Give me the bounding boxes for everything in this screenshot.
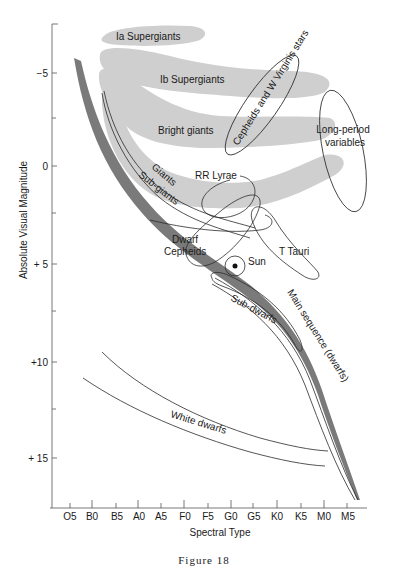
x-tick-labels: O5 B0 B5 A0 A5 F0 F5 G0 G5 K0 K5 M0 M5 (63, 511, 355, 522)
t-tauri-label: T Tauri (279, 246, 309, 257)
x-tick-label: O5 (63, 511, 77, 522)
dwarf-label: Dwarf (172, 234, 198, 245)
x-tick-label: F0 (179, 511, 191, 522)
cepheids-dwarf-label: Cepheids (164, 246, 206, 257)
x-tick-label: A0 (133, 511, 146, 522)
long-period-variables-ellipse (311, 86, 376, 216)
x-tick-label: F5 (202, 511, 214, 522)
sun-marker (225, 256, 245, 276)
x-tick-label: B0 (86, 511, 99, 522)
x-tick-label: G5 (247, 511, 261, 522)
long-period-label-1: Long-period (316, 124, 369, 135)
y-tick-label: + 15 (28, 453, 48, 464)
x-axis-title: Spectral Type (190, 527, 251, 538)
ib-supergiants-label: Ib Supergiants (160, 74, 225, 85)
x-tick-label: M5 (341, 511, 355, 522)
y-axis (52, 24, 58, 508)
white-dwarfs-label: White dwarfs (169, 408, 227, 435)
sun-label: Sun (248, 256, 266, 267)
bright-giants-label: Bright giants (158, 125, 214, 136)
long-period-label-2: variables (325, 137, 365, 148)
y-tick-label: −5 (37, 68, 49, 79)
y-tick-labels: −5 0 + 5 +10 + 15 (28, 68, 48, 464)
y-tick-label: + 5 (34, 259, 49, 270)
figure-caption: Figure 18 (178, 554, 229, 566)
rr-lyrae-label: RR Lyrae (195, 170, 237, 181)
x-tick-label: A5 (155, 511, 168, 522)
x-tick-label: B5 (111, 511, 124, 522)
t-tauri-outline (251, 207, 319, 279)
white-dwarfs-band (83, 352, 328, 466)
x-axis (50, 500, 367, 508)
y-tick-label: 0 (42, 161, 48, 172)
hr-diagram: −5 0 + 5 +10 + 15 O5 B0 B5 A0 A5 F0 F5 G… (0, 0, 402, 579)
y-tick-label: +10 (31, 357, 48, 368)
x-tick-label: K0 (271, 511, 284, 522)
x-tick-label: K5 (295, 511, 308, 522)
x-tick-label: M0 (317, 511, 331, 522)
main-sequence-lines (212, 278, 358, 500)
ia-supergiants-label: Ia Supergiants (116, 31, 181, 42)
x-tick-label: G0 (224, 511, 238, 522)
y-axis-title: Absolute Visual Magnitude (18, 160, 29, 279)
